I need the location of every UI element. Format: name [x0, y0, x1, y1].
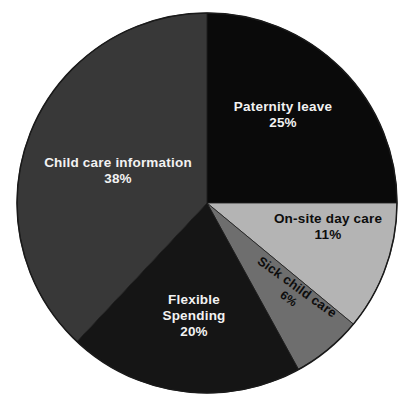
- pie-slice-group: [17, 13, 397, 393]
- pie-slice-paternity-leave[interactable]: [207, 13, 397, 203]
- pie-chart-svg: [0, 0, 409, 402]
- pie-chart: Paternity leave 25% Child care informati…: [0, 0, 409, 402]
